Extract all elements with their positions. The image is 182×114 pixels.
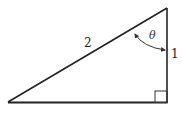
hypotenuse-line [8, 8, 167, 102]
vertical-side-label: 1 [171, 47, 179, 61]
triangle-diagram: 2 1 θ [0, 0, 182, 114]
hypotenuse-label: 2 [84, 36, 92, 50]
triangle [8, 8, 168, 103]
right-angle-marker [155, 91, 167, 103]
angle-label: θ [149, 29, 156, 42]
